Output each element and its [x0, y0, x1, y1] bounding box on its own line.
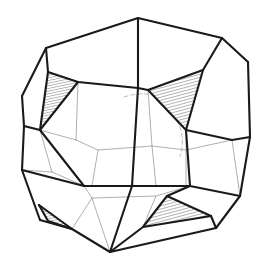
polyhedron-drawing [0, 0, 266, 266]
figure-container: Polyhedron wireframe line drawing [0, 0, 266, 266]
